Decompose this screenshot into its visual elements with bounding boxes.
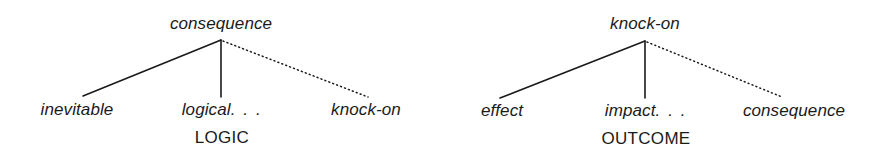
root-node-consequence: consequence <box>170 14 272 33</box>
leaf-node-label: effect <box>481 101 523 120</box>
edge-root-to-effect <box>500 41 645 98</box>
root-node-knock-on: knock-on <box>610 14 680 33</box>
edge-root-to-consequence <box>647 42 782 97</box>
ellipsis-marker: . . . <box>656 101 688 120</box>
leaf-node-impact: impact. . . <box>605 101 687 120</box>
edge-root-to-knock-on <box>223 41 368 97</box>
leaf-node-label: knock-on <box>331 100 401 119</box>
root-node-label: consequence <box>170 14 272 33</box>
leaf-node-label: consequence <box>743 101 845 120</box>
leaf-node-label: impact <box>605 101 656 120</box>
leaf-node-label: logical <box>182 100 231 119</box>
sense-label-outcome: OUTCOME <box>602 129 691 148</box>
tree-diagram-logic: consequence inevitable logical. . . knoc… <box>0 0 437 164</box>
root-node-label: knock-on <box>610 14 680 33</box>
sense-label-logic: LOGIC <box>195 128 249 147</box>
ellipsis-marker: . . . <box>231 100 263 119</box>
leaf-node-consequence: consequence <box>743 101 845 120</box>
leaf-node-inevitable: inevitable <box>41 100 114 119</box>
tree-diagram-outcome: knock-on effect impact. . . consequence … <box>437 0 874 164</box>
leaf-node-logical: logical. . . <box>182 100 263 119</box>
leaf-node-knock-on: knock-on <box>331 100 401 119</box>
edge-root-to-inevitable <box>83 40 221 96</box>
leaf-node-label: inevitable <box>41 100 114 119</box>
lexical-tree-figure: consequence inevitable logical. . . knoc… <box>0 0 874 164</box>
leaf-node-effect: effect <box>481 101 523 120</box>
